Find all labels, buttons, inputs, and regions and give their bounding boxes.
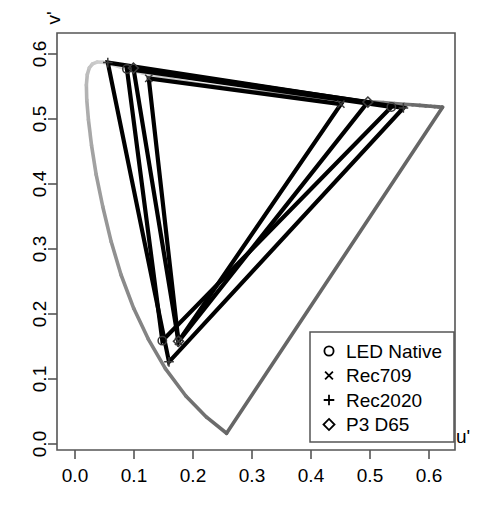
y-tick-label: 0.1 xyxy=(29,366,50,392)
gamut-triangle-p3-d65 xyxy=(133,68,367,341)
spectral-locus-segment xyxy=(165,369,185,396)
spectral-locus-segment xyxy=(103,206,111,241)
spectral-locus-segment xyxy=(121,275,134,309)
spectral-locus-segment xyxy=(96,174,103,206)
y-tick-label: 0.6 xyxy=(29,41,50,67)
legend-label-rec2020: Rec2020 xyxy=(346,390,422,411)
plot-canvas: 0.00.10.20.30.40.50.60.00.10.20.30.40.50… xyxy=(0,0,487,509)
y-tick-label: 0.4 xyxy=(29,170,50,197)
legend-label-p3-d65: P3 D65 xyxy=(346,414,409,435)
spectral-locus-segment xyxy=(111,242,121,275)
x-tick-label: 0.6 xyxy=(416,465,442,486)
x-axis-title: u' xyxy=(456,426,470,447)
x-tick-label: 0.5 xyxy=(357,465,383,486)
gamut-triangle-led-native xyxy=(127,69,391,341)
legend-label-led-native: LED Native xyxy=(346,341,442,362)
spectral-locus-segment xyxy=(207,417,227,433)
y-axis-title: v' xyxy=(43,11,64,24)
spectral-locus-segment xyxy=(88,120,91,145)
y-tick-label: 0.2 xyxy=(29,301,50,327)
x-tick-label: 0.2 xyxy=(180,465,206,486)
chromaticity-diagram: 0.00.10.20.30.40.50.60.00.10.20.30.40.50… xyxy=(0,0,487,509)
spectral-locus-segment xyxy=(92,145,97,174)
spectral-locus-segment xyxy=(87,100,89,120)
y-tick-label: 0.0 xyxy=(29,431,50,457)
x-tick-label: 0.1 xyxy=(121,465,147,486)
y-tick-label: 0.5 xyxy=(29,106,50,132)
x-tick-label: 0.3 xyxy=(239,465,265,486)
spectral-locus-segment xyxy=(186,396,207,417)
x-tick-label: 0.0 xyxy=(62,465,88,486)
y-tick-label: 0.3 xyxy=(29,236,50,262)
spectral-locus-segment xyxy=(134,308,149,339)
gamut-triangles xyxy=(108,63,404,362)
spectral-locus-segment xyxy=(148,339,165,369)
legend-label-rec709: Rec709 xyxy=(346,365,412,386)
x-tick-label: 0.4 xyxy=(298,465,325,486)
legend[interactable]: LED NativeRec709Rec2020P3 D65 xyxy=(310,332,454,442)
